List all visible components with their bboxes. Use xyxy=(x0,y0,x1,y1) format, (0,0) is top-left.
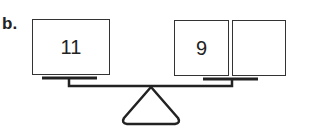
right-box-2-empty[interactable] xyxy=(232,20,286,76)
fulcrum xyxy=(123,87,179,124)
right-box-1: 9 xyxy=(174,20,229,76)
left-box: 11 xyxy=(32,19,110,75)
